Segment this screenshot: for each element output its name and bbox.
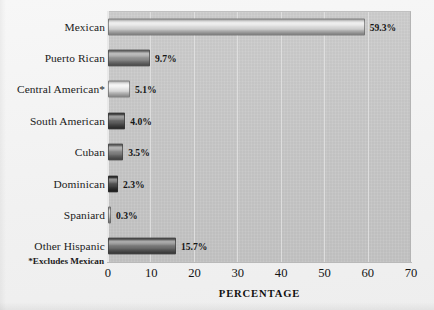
bar-row: Cuban3.5% (0, 137, 434, 168)
page-edge-shading-bottom (0, 302, 434, 310)
x-tick-label: 50 (318, 266, 331, 281)
category-label: Central American* (17, 83, 105, 95)
bar-container: 5.1% (108, 81, 157, 98)
bar-value-label: 59.3% (370, 21, 396, 32)
bar-chart: Mexican59.3%Puerto Rican9.7%Central Amer… (0, 0, 434, 310)
category-label: South American (30, 115, 105, 127)
x-tick-label: 70 (405, 266, 418, 281)
bar-row: Puerto Rican9.7% (0, 42, 434, 73)
category-label: Spaniard (64, 209, 105, 221)
x-tick-label: 60 (361, 266, 374, 281)
bar[interactable] (108, 206, 111, 223)
bar[interactable] (108, 144, 123, 161)
x-axis-line (107, 262, 412, 263)
bar-value-label: 3.5% (128, 147, 150, 158)
bar-row: Central American*5.1% (0, 74, 434, 105)
x-axis-title: PERCENTAGE (107, 288, 412, 299)
bar-container: 0.3% (108, 206, 138, 223)
bar-row: Dominican2.3% (0, 168, 434, 199)
bar-container: 3.5% (108, 144, 150, 161)
category-label: Puerto Rican (45, 52, 105, 64)
bar[interactable] (108, 50, 150, 67)
bar-row: Spaniard0.3% (0, 199, 434, 230)
x-axis-ticks: 010203040506070 (0, 266, 434, 284)
bar-row: South American4.0% (0, 105, 434, 136)
bar-row: Mexican59.3% (0, 11, 434, 42)
bar[interactable] (108, 18, 365, 35)
x-tick-label: 10 (145, 266, 158, 281)
category-label: Cuban (75, 146, 105, 158)
bar-value-label: 9.7% (155, 53, 177, 64)
bar-value-label: 15.7% (181, 241, 207, 252)
bar-container: 15.7% (108, 238, 207, 255)
category-label: Mexican (64, 21, 105, 33)
category-label: Other Hispanic (34, 240, 105, 252)
category-label: Dominican (53, 178, 105, 190)
bar[interactable] (108, 175, 118, 192)
bar[interactable] (108, 238, 176, 255)
x-tick-label: 40 (275, 266, 288, 281)
x-tick-label: 30 (232, 266, 245, 281)
bar[interactable] (108, 112, 125, 129)
bar-value-label: 5.1% (135, 84, 157, 95)
bar-container: 9.7% (108, 50, 177, 67)
x-tick-label: 20 (188, 266, 201, 281)
bar-container: 4.0% (108, 112, 152, 129)
bar-value-label: 0.3% (116, 209, 138, 220)
bar-value-label: 4.0% (130, 115, 152, 126)
footnote: *Excludes Mexican (28, 256, 104, 266)
bar[interactable] (108, 81, 130, 98)
x-tick-label: 0 (105, 266, 111, 281)
bar-rows: Mexican59.3%Puerto Rican9.7%Central Amer… (0, 11, 434, 262)
bar-container: 59.3% (108, 18, 396, 35)
bar-container: 2.3% (108, 175, 145, 192)
bar-value-label: 2.3% (123, 178, 145, 189)
